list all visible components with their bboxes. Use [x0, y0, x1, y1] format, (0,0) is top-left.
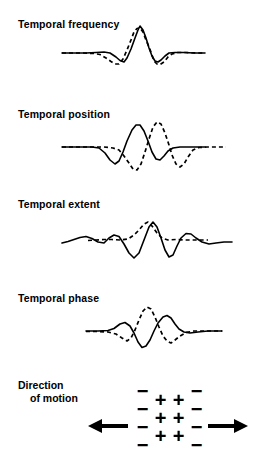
waveform-plot-temporal-phase — [0, 285, 260, 375]
sign-minus: − — [188, 440, 205, 450]
sign-plus: + — [152, 395, 169, 405]
waveform-plot-temporal-extent — [0, 190, 260, 285]
waveform-solid — [86, 316, 222, 348]
right-arrow-icon — [208, 418, 248, 434]
sign-plus: + — [170, 395, 187, 405]
sign-minus: − — [134, 422, 151, 432]
waveform-solid — [62, 26, 205, 62]
waveform-dashed — [86, 307, 222, 343]
sign-column-plus-inner-right: + + + — [170, 384, 187, 456]
panel-temporal-frequency: Temporal frequency — [0, 0, 260, 95]
sign-column-minus-right: − − − − — [188, 384, 205, 456]
temporal-properties-figure: Temporal frequency Temporal position Tem… — [0, 0, 260, 470]
sign-plus: + — [170, 431, 187, 441]
direction-label-line2: of motion — [18, 392, 78, 405]
sign-column-plus-inner-left: + + + — [152, 384, 169, 456]
sign-minus: − — [134, 440, 151, 450]
panel-temporal-extent: Temporal extent — [0, 190, 260, 285]
sign-minus: − — [134, 404, 151, 414]
waveform-plot-temporal-position — [0, 95, 260, 190]
sign-plus: + — [152, 413, 169, 423]
sign-plus: + — [152, 431, 169, 441]
sign-column-minus-left: − − − − — [134, 384, 151, 456]
waveform-dashed — [62, 28, 205, 65]
panel-temporal-position: Temporal position — [0, 95, 260, 190]
direction-of-motion-label: Direction of motion — [18, 379, 78, 405]
direction-label-line1: Direction — [18, 379, 64, 391]
panel-temporal-phase: Temporal phase — [0, 285, 260, 375]
panel-direction-of-motion: Direction of motion − − − − + + + + + — [0, 374, 260, 470]
sign-minus: − — [188, 404, 205, 414]
sign-minus: − — [134, 386, 151, 396]
left-arrow-icon — [88, 418, 128, 434]
waveform-solid — [62, 125, 205, 164]
waveform-solid — [62, 222, 232, 258]
sign-minus: − — [188, 386, 205, 396]
sign-plus: + — [170, 413, 187, 423]
waveform-dashed — [62, 122, 226, 170]
motion-sign-grid: − − − − + + + + + + − − − − — [134, 384, 206, 456]
waveform-plot-temporal-frequency — [0, 0, 260, 95]
sign-minus: − — [188, 422, 205, 432]
